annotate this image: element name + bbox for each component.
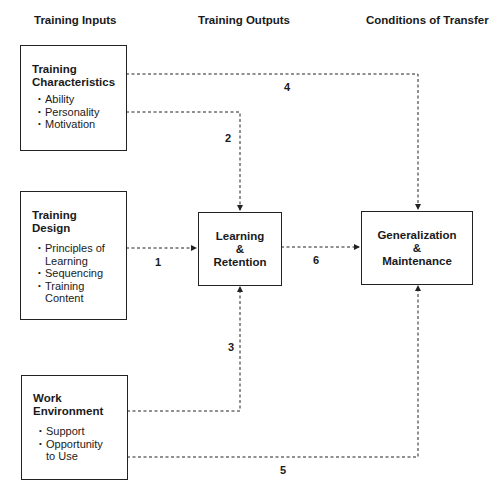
link-label-3: 3 (228, 341, 234, 353)
box-title: Learning (213, 230, 266, 243)
box-work-environment: Work Environment Support Opportunity to … (21, 375, 128, 480)
box-title: Environment (33, 405, 127, 418)
link-3-line (127, 287, 240, 411)
bullet-list: Support Opportunity to Use (33, 425, 109, 463)
box-training-design: Training Design Principles of Learning S… (20, 191, 127, 320)
bullet-list: Principles of Learning Sequencing Traini… (32, 242, 114, 305)
box-title: & (213, 243, 266, 256)
link-label-1: 1 (155, 256, 161, 268)
link-label-2: 2 (225, 132, 231, 144)
list-item: Principles of Learning (38, 242, 114, 267)
box-title: Generalization (377, 229, 456, 242)
bullet-list: Ability Personality Motivation (32, 93, 126, 131)
box-title: Training (32, 63, 126, 76)
list-item: Support (39, 425, 109, 438)
list-item: Sequencing (38, 267, 114, 280)
list-item: Opportunity to Use (39, 438, 109, 463)
box-title: Maintenance (377, 255, 456, 268)
list-item: Training Content (38, 280, 114, 305)
box-title: Design (32, 222, 126, 235)
list-item: Ability (38, 93, 126, 106)
box-title: Work (33, 392, 127, 405)
link-label-4: 4 (284, 81, 290, 93)
box-title: Characteristics (32, 76, 126, 89)
box-title: Retention (213, 256, 266, 269)
box-title: & (377, 242, 456, 255)
link-5-line (127, 286, 418, 457)
link-4-line (126, 74, 418, 209)
box-learning-retention: Learning & Retention (198, 212, 282, 286)
list-item: Personality (38, 106, 126, 119)
box-title: Training (32, 209, 126, 222)
list-item: Motivation (38, 118, 126, 131)
link-2-line (126, 112, 240, 210)
link-label-5: 5 (280, 464, 286, 476)
link-label-6: 6 (313, 254, 319, 266)
box-generalization-maintenance: Generalization & Maintenance (361, 211, 473, 285)
box-training-characteristics: Training Characteristics Ability Persona… (20, 45, 127, 151)
